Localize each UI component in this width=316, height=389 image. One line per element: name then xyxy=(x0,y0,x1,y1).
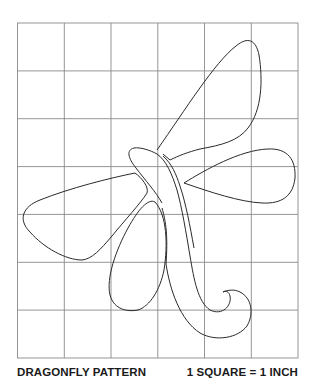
left-wing xyxy=(23,173,147,260)
pattern-title: DRAGONFLY PATTERN xyxy=(17,366,146,378)
body-outer-line xyxy=(162,156,251,338)
body-inner-line xyxy=(129,148,230,312)
scale-note: 1 SQUARE = 1 INCH xyxy=(187,366,298,378)
upper-right-wing xyxy=(157,40,261,160)
grid xyxy=(18,23,299,358)
right-wing xyxy=(184,149,295,203)
dragonfly-pattern-diagram xyxy=(0,0,316,389)
